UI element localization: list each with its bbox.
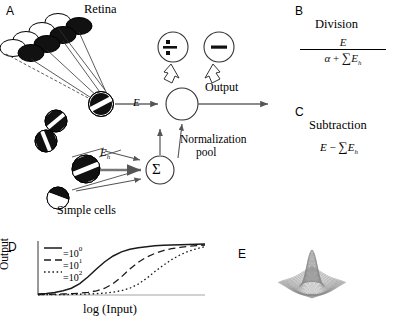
mesh-lines-v <box>278 250 345 298</box>
panel-e-mesh-surface <box>0 0 396 329</box>
figure-normalization-model: A <box>0 0 396 329</box>
